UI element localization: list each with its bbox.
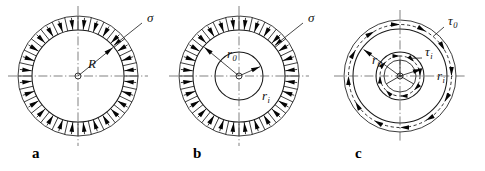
outer-shear-arrowhead (346, 76, 351, 85)
inner-spoke-1 (400, 76, 414, 84)
pressure-arrowhead (278, 101, 287, 108)
inner-shear-arrowhead (400, 94, 408, 98)
pressure-arrowhead (230, 122, 235, 132)
pressure-arrowhead (117, 101, 126, 108)
pressure-arrowhead (57, 22, 62, 32)
band-divider (249, 18, 252, 32)
band-divider (20, 86, 34, 89)
band-divider (123, 63, 137, 66)
pressure-arrowhead (285, 67, 295, 72)
inner-shear-arrowhead (393, 54, 401, 58)
radius-ri-dimension-arrowhead (251, 67, 260, 73)
pressure-arrowhead (46, 27, 53, 36)
panel-b-annulus-pressure: σr0ri (169, 6, 315, 146)
band-divider (98, 22, 104, 35)
pressure-arrowhead (264, 27, 271, 36)
label-radius-R: R (87, 56, 96, 71)
pressure-arrowhead (254, 22, 259, 32)
label-radius-r0: r0 (372, 52, 383, 69)
pressure-arrowhead (122, 55, 132, 60)
band-divider (65, 18, 68, 32)
inner-spoke-2 (386, 76, 400, 84)
band-divider (185, 50, 198, 56)
pressure-arrowhead (124, 67, 134, 72)
pressure-arrowhead (57, 120, 62, 130)
pressure-arrowhead (230, 20, 235, 30)
label-sigma: σ (147, 10, 154, 25)
pressure-arrowhead (69, 122, 74, 132)
figure-container: σR σr0ri τ0τir0ri a b c (0, 0, 485, 171)
pressure-arrowhead (24, 91, 34, 96)
pressure-arrowhead (103, 115, 110, 124)
band-divider (88, 18, 91, 32)
band-divider (259, 22, 265, 35)
pressure-arrowhead (124, 80, 134, 85)
band-divider (24, 50, 37, 56)
label-taui: τi (425, 44, 433, 61)
pressure-arrowhead (183, 80, 193, 85)
label-radius-r0-subscript: 0 (233, 53, 238, 63)
band-divider (88, 121, 91, 135)
pressure-arrowhead (207, 115, 214, 124)
pressure-arrowhead (82, 122, 87, 132)
panel-letter-c: c (355, 145, 362, 161)
radius-r0-dimension-arrowhead (364, 50, 373, 57)
band-divider (213, 22, 219, 35)
pressure-arrowhead (22, 67, 32, 72)
label-tau0: τ0 (448, 13, 458, 30)
band-divider (226, 121, 229, 135)
band-divider (280, 96, 293, 102)
pressure-arrowhead (185, 91, 195, 96)
panel-letter-b: b (193, 145, 201, 161)
label-sigma: σ (308, 10, 315, 25)
pressure-arrowhead (122, 91, 132, 96)
band-divider (98, 117, 104, 130)
band-divider (226, 18, 229, 32)
pressure-arrowhead (93, 120, 98, 130)
pressure-arrowhead (207, 27, 214, 36)
pressure-arrowhead (218, 120, 223, 130)
technical-diagram: σR σr0ri τ0τir0ri a b c (0, 0, 485, 171)
pressure-arrowhead (264, 115, 271, 124)
pressure-arrowhead (24, 55, 34, 60)
band-divider (181, 63, 195, 66)
pressure-arrowhead (29, 44, 38, 51)
pressure-arrowhead (190, 101, 199, 108)
label-taui-subscript: i (430, 51, 433, 61)
band-divider (119, 50, 132, 56)
band-divider (280, 50, 293, 56)
outer-shear-arrowhead (449, 67, 454, 76)
pressure-arrowhead (283, 91, 293, 96)
panel-c-annulus-shear: τ0τir0ri (334, 10, 466, 142)
outer-shear-arrowhead (400, 125, 409, 130)
pressure-arrowhead (254, 120, 259, 130)
panel-a-solid-disk: σR (8, 6, 154, 146)
label-radius-r0: r0 (227, 46, 238, 63)
pressure-arrowhead (22, 80, 32, 85)
band-divider (20, 63, 34, 66)
label-radius-ri-subscript: i (443, 75, 446, 85)
pressure-arrowhead (69, 20, 74, 30)
band-divider (119, 96, 132, 102)
pressure-arrowhead (117, 44, 126, 51)
panel-letter-a: a (32, 145, 40, 161)
outer-shear-arrowhead (391, 22, 400, 27)
band-divider (213, 117, 219, 130)
pressure-arrowhead (243, 122, 248, 132)
band-divider (249, 121, 252, 135)
pressure-arrowhead (218, 22, 223, 32)
pressure-arrowhead (185, 55, 195, 60)
outer-shear-arrowhead (355, 102, 361, 111)
band-divider (52, 22, 58, 35)
inner-shear-arrowhead (378, 76, 382, 84)
pressure-arrowhead (190, 44, 199, 51)
pressure-arrowhead (183, 67, 193, 72)
band-divider (284, 63, 298, 66)
band-divider (284, 86, 298, 89)
label-radius-ri-subscript: i (268, 95, 271, 105)
label-radius-ri: ri (262, 88, 271, 105)
pressure-arrowhead (243, 20, 248, 30)
label-radius-ri: ri (437, 68, 446, 85)
band-divider (52, 117, 58, 130)
band-divider (185, 96, 198, 102)
